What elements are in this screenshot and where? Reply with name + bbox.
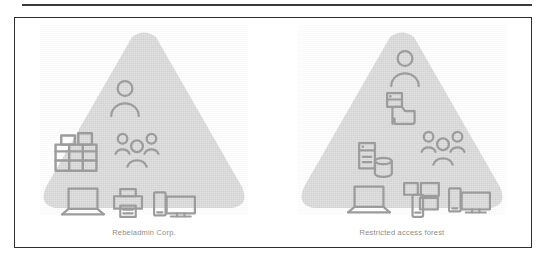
user-icon: [108, 79, 142, 117]
left-forest-caption: Rebeladmin Corp.: [15, 228, 273, 237]
right-forest-panel: Restricted access forest: [273, 18, 531, 247]
office-building-icon: [53, 131, 99, 173]
left-forest-panel: Rebeladmin Corp.: [15, 18, 273, 247]
user-group-icon: [420, 129, 466, 167]
user-icon: [388, 49, 422, 87]
printer-icon: [112, 187, 144, 219]
user-group-icon: [114, 131, 160, 169]
right-forest-triangle: [298, 25, 506, 215]
phone-monitor-icon: [153, 189, 197, 223]
forest-diagram: Rebeladmin Corp.: [15, 18, 531, 247]
laptop-icon: [60, 185, 106, 219]
top-horizontal-rule: [22, 4, 532, 6]
server-folder-icon: [384, 91, 422, 127]
laptop-icon: [346, 183, 392, 217]
right-forest-caption: Restricted access forest: [273, 228, 531, 237]
left-forest-triangle: [40, 25, 248, 215]
server-database-icon: [357, 141, 395, 181]
device-cluster-icon: [402, 181, 442, 219]
phone-monitor-icon: [448, 185, 492, 219]
figure-frame: Rebeladmin Corp.: [14, 17, 532, 248]
